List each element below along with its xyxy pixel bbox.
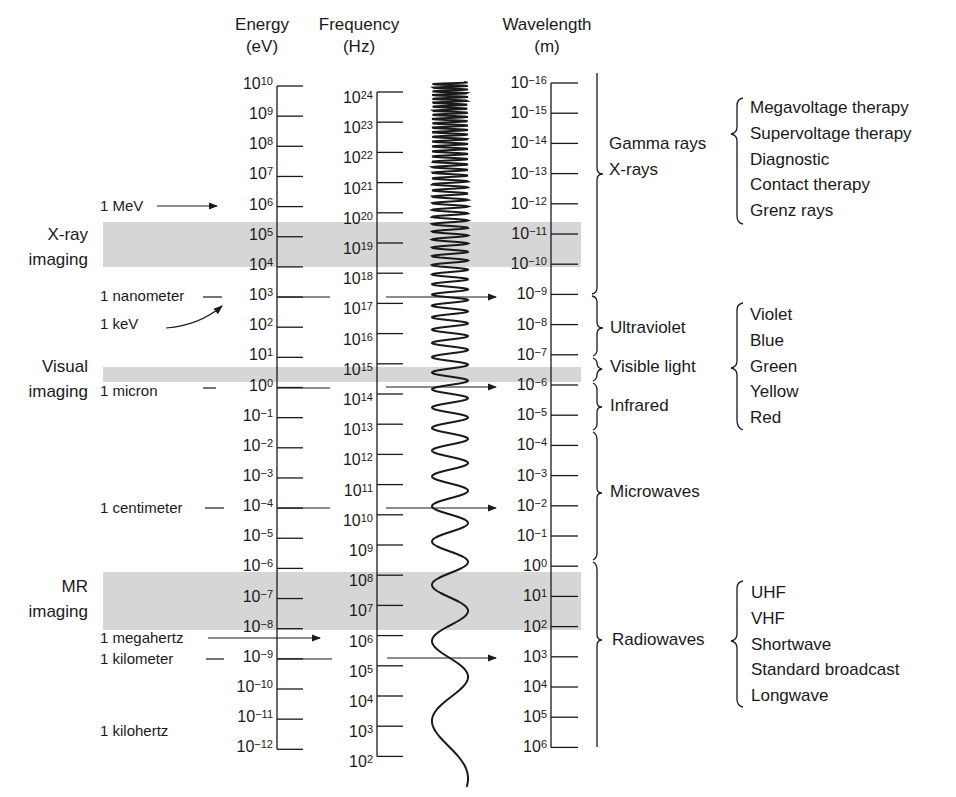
kilometer-annotation: 1 kilometer	[100, 649, 173, 669]
therapy-list: Megavoltage therapy Supervoltage therapy…	[750, 95, 912, 224]
microwaves-region-label: Microwaves	[610, 482, 700, 502]
list-item: UHF	[751, 580, 899, 606]
micron-annotation: 1 micron	[100, 381, 158, 401]
list-item: VHF	[751, 606, 899, 632]
visual-imaging-label: Visual imaging	[16, 354, 88, 404]
wave-icon	[432, 82, 468, 787]
list-item: Grenz rays	[750, 198, 912, 224]
list-item: Diagnostic	[750, 147, 912, 173]
list-item: Longwave	[751, 683, 899, 709]
radio-list: UHF VHF Shortwave Standard broadcast Lon…	[751, 580, 899, 709]
list-item: Yellow	[750, 379, 799, 405]
list-item: Violet	[750, 302, 799, 328]
mr-imaging-label: MR imaging	[16, 574, 88, 624]
list-item: Contact therapy	[750, 172, 912, 198]
ultraviolet-region-label: Ultraviolet	[610, 318, 686, 338]
list-item: Blue	[750, 328, 799, 354]
colors-list: Violet Blue Green Yellow Red	[750, 302, 799, 431]
kilohertz-annotation: 1 kilohertz	[100, 721, 168, 741]
gamma-xray-region-label: Gamma rays X-rays	[609, 131, 706, 183]
mev-annotation: 1 MeV	[100, 196, 143, 216]
list-item: Shortwave	[751, 632, 899, 658]
radiowaves-region-label: Radiowaves	[612, 630, 705, 650]
list-item: Megavoltage therapy	[750, 95, 912, 121]
list-item: Green	[750, 354, 799, 380]
electromagnetic-spectrum-diagram: Energy (eV) Frequency (Hz) Wavelength (m…	[0, 0, 956, 797]
nanometer-annotation: 1 nanometer	[100, 286, 184, 306]
infrared-region-label: Infrared	[610, 396, 669, 416]
list-item: Supervoltage therapy	[750, 121, 912, 147]
list-item: Standard broadcast	[751, 657, 899, 683]
centimeter-annotation: 1 centimeter	[100, 498, 183, 518]
list-item: Red	[750, 405, 799, 431]
kev-annotation: 1 keV	[100, 314, 138, 334]
xray-imaging-label: X-ray imaging	[22, 222, 88, 272]
visible-region-label: Visible light	[610, 357, 696, 377]
megahertz-annotation: 1 megahertz	[100, 628, 183, 648]
